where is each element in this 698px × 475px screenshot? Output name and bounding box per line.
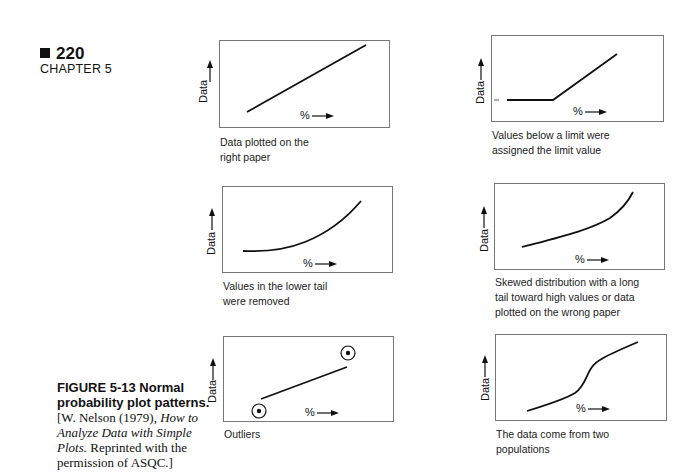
caption-line: populations	[496, 442, 698, 457]
x-axis-label: %	[576, 402, 586, 414]
panel-caption: The data come from two populations	[496, 427, 698, 457]
caption-line: The data come from two	[496, 427, 698, 442]
x-arrow-icon	[588, 406, 610, 412]
y-arrow-icon	[482, 355, 488, 377]
plot-graphics	[0, 0, 698, 475]
